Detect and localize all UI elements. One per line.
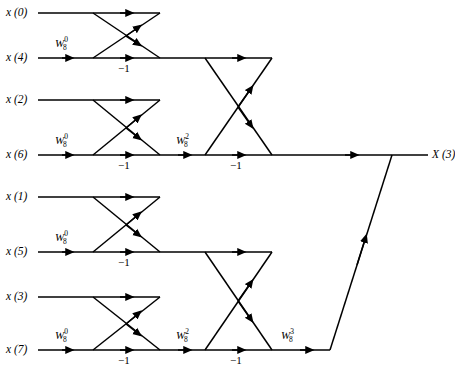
twiddle-label-s1-r7: W08 xyxy=(55,330,67,341)
twiddle-radix: 8 xyxy=(63,237,67,246)
s1b4-cross-down-arrow xyxy=(126,324,140,335)
fft-flow-graph-figure: x (0) x (4) x (2) x (6) x (1) x (5) x (3… xyxy=(0,0,455,366)
twiddle-radix: 8 xyxy=(63,335,67,344)
input-label-x5: x (5) xyxy=(6,246,27,258)
twiddle-radix: 8 xyxy=(184,335,188,344)
twiddle-label-s1-r5: W08 xyxy=(55,232,67,243)
twiddle-radix: 8 xyxy=(63,140,67,149)
twiddle-label-s2-r3: W28 xyxy=(176,135,188,146)
output-label-X3: X (3) xyxy=(432,149,455,161)
twiddle-radix: 8 xyxy=(184,140,188,149)
s2b1-cross-down-arrow xyxy=(238,107,252,127)
s1b3-cross-down-arrow xyxy=(126,225,140,236)
minus-one-label: −1 xyxy=(118,355,130,366)
input-label-x0: x (0) xyxy=(6,7,27,19)
twiddle-label-s1-r3: W08 xyxy=(55,135,67,146)
flow-graph-canvas xyxy=(0,0,455,366)
s1b1-cross-up-arrow xyxy=(126,26,140,36)
minus-one-label: −1 xyxy=(230,355,242,366)
flow-lines xyxy=(38,13,428,350)
s1b2-cross-up-arrow xyxy=(126,116,140,128)
minus-one-label: −1 xyxy=(118,257,130,268)
input-label-x2: x (2) xyxy=(6,94,27,106)
input-label-x6: x (6) xyxy=(6,149,27,161)
minus-one-label: −1 xyxy=(118,160,130,171)
s1b4-cross-up-arrow xyxy=(126,312,140,324)
twiddle-label-s1-r1: W08 xyxy=(55,38,67,49)
twiddle-radix: 8 xyxy=(289,335,293,344)
input-label-x4: x (4) xyxy=(6,52,27,64)
input-label-x3: x (3) xyxy=(6,291,27,303)
minus-one-label: −1 xyxy=(118,63,130,74)
s3-cross-up-arrow xyxy=(357,236,366,265)
twiddle-radix: 8 xyxy=(63,43,67,52)
s1b3-cross-up-arrow xyxy=(126,213,140,225)
s2b1-cross-up-arrow xyxy=(238,87,252,107)
twiddle-label-s3-r7: W38 xyxy=(281,330,293,341)
s2b2-cross-down-arrow xyxy=(238,301,252,321)
s1b2-cross-down-arrow xyxy=(126,128,140,139)
s1b1-cross-down-arrow xyxy=(126,36,140,45)
input-label-x1: x (1) xyxy=(6,191,27,203)
s2b2-cross-up-arrow xyxy=(238,281,252,301)
input-label-x7: x (7) xyxy=(6,344,27,356)
twiddle-label-s2-r7: W28 xyxy=(176,330,188,341)
minus-one-label: −1 xyxy=(230,160,242,171)
